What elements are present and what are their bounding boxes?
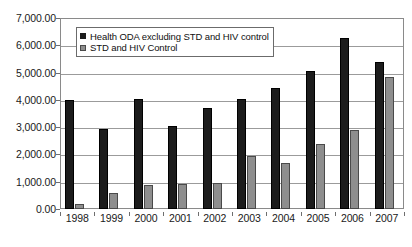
y-axis-tick-label: 1,000.00 — [0, 176, 56, 188]
x-axis-tick-label: 2007 — [370, 212, 404, 224]
y-axis: 0.001,000.002,000.003,000.004,000.005,00… — [0, 0, 56, 247]
x-axis-tick-label: 2002 — [198, 212, 232, 224]
bar-series-0 — [271, 88, 280, 209]
legend-swatch-series-0-icon — [80, 33, 86, 39]
bar-group — [301, 18, 335, 209]
y-axis-tick-label: 6,000.00 — [0, 39, 56, 51]
bar-series-1 — [281, 163, 290, 209]
y-axis-tick-label: 3,000.00 — [0, 121, 56, 133]
x-axis-tick-mark — [94, 212, 95, 216]
bar-group — [370, 18, 404, 209]
chart-screenshot: 0.001,000.002,000.003,000.004,000.005,00… — [0, 0, 412, 247]
bar-series-1 — [75, 204, 84, 209]
bar-series-1 — [247, 156, 256, 209]
x-axis-tick-label: 1999 — [94, 212, 128, 224]
bar-series-0 — [340, 38, 349, 209]
x-axis-tick-label: 2001 — [163, 212, 197, 224]
y-axis-tick-label: 4,000.00 — [0, 94, 56, 106]
y-axis-tick-mark — [56, 209, 60, 210]
x-axis-tick-label: 2004 — [266, 212, 300, 224]
x-axis-tick-mark — [335, 212, 336, 216]
x-axis-tick-mark — [129, 212, 130, 216]
bar-series-0 — [237, 99, 246, 209]
x-axis-tick-mark — [60, 212, 61, 216]
legend-item: STD and HIV Control — [80, 42, 269, 53]
legend-label-series-0: Health ODA excluding STD and HIV control — [90, 31, 269, 42]
y-axis-tick-label: 0.00 — [0, 203, 56, 215]
x-axis-tick-label: 2003 — [232, 212, 266, 224]
x-axis-tick-mark — [232, 212, 233, 216]
bar-series-1 — [144, 185, 153, 209]
bar-series-0 — [99, 129, 108, 209]
bar-group — [335, 18, 369, 209]
x-axis-tick-mark — [301, 212, 302, 216]
bar-series-1 — [385, 77, 394, 209]
bar-series-0 — [203, 108, 212, 209]
x-axis-tick-mark — [198, 212, 199, 216]
legend-label-series-1: STD and HIV Control — [90, 42, 177, 53]
x-axis-tick-mark — [266, 212, 267, 216]
bar-series-0 — [306, 71, 315, 209]
y-axis-tick-label: 5,000.00 — [0, 67, 56, 79]
x-axis: 1998199920002001200220032004200520062007 — [60, 212, 404, 232]
bar-series-1 — [178, 184, 187, 209]
bar-series-0 — [168, 126, 177, 209]
legend-swatch-series-1-icon — [80, 45, 86, 51]
legend-item: Health ODA excluding STD and HIV control — [80, 31, 269, 42]
bar-series-1 — [109, 193, 118, 209]
bar-series-1 — [350, 130, 359, 209]
bar-series-1 — [316, 144, 325, 209]
x-axis-tick-mark — [370, 212, 371, 216]
chart-legend: Health ODA excluding STD and HIV control… — [76, 27, 274, 57]
y-axis-tick-label: 7,000.00 — [0, 12, 56, 24]
y-axis-tick-label: 2,000.00 — [0, 148, 56, 160]
bar-series-1 — [213, 183, 222, 209]
x-axis-tick-label: 1998 — [60, 212, 94, 224]
x-axis-tick-label: 2000 — [129, 212, 163, 224]
x-axis-tick-label: 2006 — [335, 212, 369, 224]
bar-series-0 — [375, 62, 384, 209]
bar-series-0 — [134, 99, 143, 210]
bar-series-0 — [65, 100, 74, 209]
x-axis-tick-label: 2005 — [301, 212, 335, 224]
x-axis-tick-mark — [404, 212, 405, 216]
x-axis-tick-mark — [163, 212, 164, 216]
